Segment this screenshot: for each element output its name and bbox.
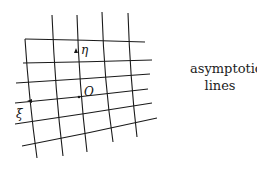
grid-line-v1 [25,39,37,158]
grid-line-h3 [16,74,150,83]
eta-arrow-icon [74,48,78,53]
xi-label: ξ [16,107,24,121]
grid-line-h1 [25,39,145,42]
origin-label: O [84,85,94,99]
grid-line-v2 [52,15,63,156]
origin-point [78,96,81,99]
grid-line-v3 [77,15,87,152]
caption: asymptotic lines [190,60,250,94]
caption-line-2: lines [190,77,250,94]
grid-line-h2 [23,60,152,63]
caption-line-1: asymptotic [190,60,250,77]
eta-label: η [81,43,89,57]
